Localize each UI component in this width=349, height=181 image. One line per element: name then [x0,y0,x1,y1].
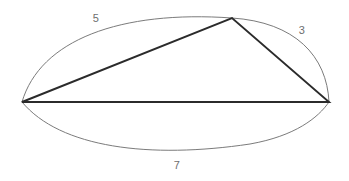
figure-canvas: 5 3 7 [0,0,349,181]
arc-7-path [22,102,329,150]
geometry-diagram [0,0,349,181]
arc-label-7: 7 [174,160,180,171]
arc-label-3: 3 [299,25,305,36]
arc-label-5: 5 [93,13,99,24]
